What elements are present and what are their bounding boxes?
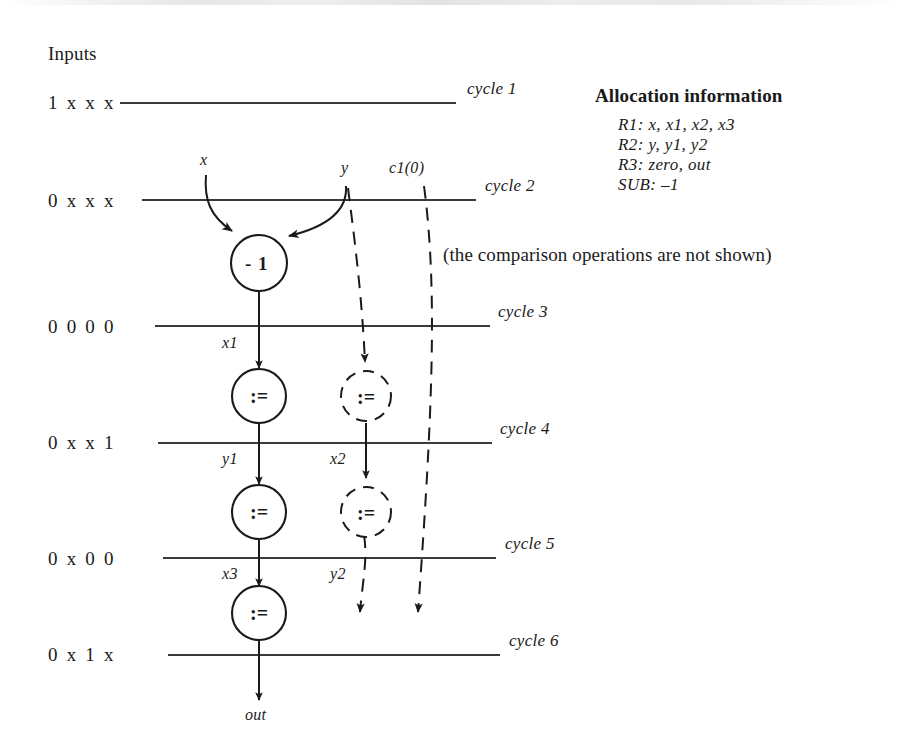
c1-dashed-path [418,186,432,612]
cycle-label-5: cycle 5 [505,535,555,552]
comparison-note: (the comparison operations are not shown… [443,245,772,264]
cycle-label-4: cycle 4 [500,420,550,437]
allocation-title: Allocation information [595,86,782,105]
signal-label-c1: c1(0) [389,160,424,176]
diagram-page: Inputs 1 x x x 0 x x x 0 0 0 0 0 x x 1 0… [0,0,905,751]
input-pattern-cycle-3: 0 0 0 0 [48,317,116,336]
input-pattern-cycle-5: 0 x 0 0 [48,549,116,568]
node-assign-2-label: := [250,502,268,522]
cycle-label-1: cycle 1 [467,80,517,97]
signal-label-y1: y1 [222,451,238,467]
cycle-boundary-lines [120,103,500,655]
y-input-curve [289,186,346,236]
cycle-label-6: cycle 6 [509,632,559,649]
node-assign-1-label: := [250,386,268,406]
y-dashed-to-assign1-dashed [348,188,365,362]
signal-label-y2: y2 [330,566,346,582]
allocation-line-sub: SUB: –1 [618,176,679,193]
node-assign-3-label: := [250,603,268,623]
allocation-line-r3: R3: zero, out [618,156,711,173]
assign2d-to-y2-arrow [360,535,365,612]
input-pattern-cycle-2: 0 x x x [48,191,116,210]
signal-label-x1: x1 [222,335,238,351]
signal-label-y: y [341,160,348,176]
node-assign-2-dashed-label: := [357,503,375,523]
signal-label-x: x [200,152,207,168]
cycle-label-2: cycle 2 [485,177,535,194]
input-pattern-cycle-4: 0 x x 1 [48,433,116,452]
allocation-line-r1: R1: x, x1, x2, x3 [618,116,735,133]
scheduling-diagram-canvas [0,0,905,751]
input-curve-arrows [206,175,346,236]
allocation-line-r2: R2: y, y1, y2 [618,136,708,153]
signal-label-x3: x3 [222,566,238,582]
node-sub-label: - 1 [245,254,269,273]
input-pattern-cycle-6: 0 x 1 x [48,645,116,664]
node-assign-1-dashed-label: := [357,387,375,407]
x-input-curve [206,175,232,231]
signal-label-out: out [245,707,266,723]
cycle-label-3: cycle 3 [498,303,548,320]
inputs-header: Inputs [48,44,97,63]
signal-label-x2: x2 [330,451,346,467]
input-pattern-cycle-1: 1 x x x [48,93,116,112]
